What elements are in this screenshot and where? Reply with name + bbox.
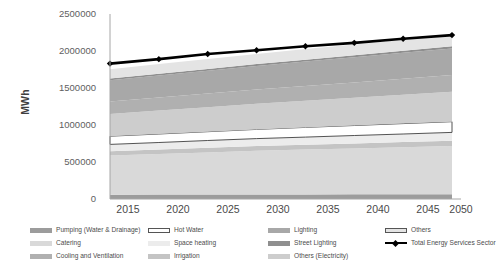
x-tick-label: 2015 — [101, 203, 155, 215]
legend-item[interactable]: Irrigation — [148, 252, 200, 260]
legend-item-label: Others (Electricity) — [294, 252, 348, 260]
legend-item-label: Lighting — [294, 226, 317, 234]
legend-item-label: Irrigation — [174, 252, 200, 260]
legend-item[interactable]: Lighting — [268, 226, 317, 234]
area-band — [110, 194, 452, 199]
legend-item-label: Others — [411, 226, 431, 234]
legend-swatch-icon — [148, 228, 170, 233]
legend-item[interactable]: Hot Water — [148, 226, 203, 234]
legend-line-marker-icon — [385, 241, 407, 246]
legend-swatch-icon — [148, 241, 170, 246]
legend-swatch-icon — [268, 254, 290, 259]
legend-swatch-icon — [385, 228, 407, 233]
legend-swatch-icon — [30, 228, 52, 233]
legend-item-label: Space heating — [174, 239, 216, 247]
x-tick-label: 2040 — [351, 203, 405, 215]
total-line-marker — [253, 47, 259, 53]
legend-item-label: Street Lighting — [294, 239, 337, 247]
total-line-marker — [302, 43, 308, 49]
total-line-marker — [156, 56, 162, 62]
legend-item[interactable]: Total Energy Services Sector — [385, 239, 496, 247]
x-tick-label: 2035 — [301, 203, 355, 215]
legend-swatch-icon — [30, 241, 52, 246]
legend-item[interactable]: Others — [385, 226, 431, 234]
legend-item[interactable]: Street Lighting — [268, 239, 337, 247]
legend-swatch-icon — [268, 241, 290, 246]
legend-swatch-icon — [30, 254, 52, 259]
legend-item-label: Catering — [56, 239, 81, 247]
x-tick-label: 2020 — [151, 203, 205, 215]
x-tick-label: 2050 — [434, 203, 488, 215]
legend-item[interactable]: Catering — [30, 239, 81, 247]
legend-item[interactable]: Space heating — [148, 239, 216, 247]
legend-swatch-icon — [268, 228, 290, 233]
chart-legend: Pumping (Water & Drainage)CateringCoolin… — [30, 226, 475, 262]
legend-item-label: Cooling and Ventilation — [56, 252, 123, 260]
legend-item-label: Total Energy Services Sector — [411, 239, 496, 247]
total-line-marker — [205, 51, 211, 57]
x-tick-label: 2030 — [251, 203, 305, 215]
legend-swatch-icon — [148, 254, 170, 259]
x-tick-label: 2025 — [201, 203, 255, 215]
legend-item-label: Hot Water — [174, 226, 203, 234]
legend-item[interactable]: Pumping (Water & Drainage) — [30, 226, 140, 234]
legend-item[interactable]: Cooling and Ventilation — [30, 252, 123, 260]
legend-item[interactable]: Others (Electricity) — [268, 252, 348, 260]
legend-item-label: Pumping (Water & Drainage) — [56, 226, 140, 234]
